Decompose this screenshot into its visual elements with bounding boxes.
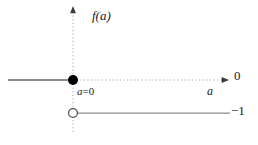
y-axis-arrow-icon — [70, 6, 76, 13]
origin-annotation-label: a=0 — [77, 86, 94, 97]
plot-canvas — [0, 0, 258, 145]
function-plot-figure: f(a) a=0 a 0 −1 — [0, 0, 258, 145]
lower-level-value-label: −1 — [231, 104, 245, 117]
x-axis-arrow-icon — [222, 77, 229, 83]
y-axis-label: f(a) — [92, 9, 111, 22]
x-axis-label: a — [207, 85, 213, 97]
upper-level-value-label: 0 — [234, 69, 241, 82]
filled-endpoint-marker — [68, 75, 78, 85]
origin-annotation-value: =0 — [83, 85, 95, 97]
open-endpoint-marker — [69, 109, 78, 118]
